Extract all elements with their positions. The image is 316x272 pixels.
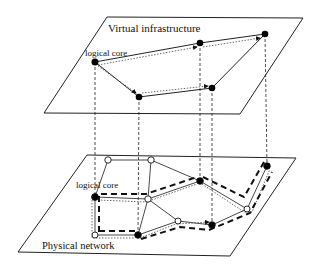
physical-node-open bbox=[244, 206, 250, 212]
logical-core-label-top: logical core bbox=[85, 48, 127, 58]
virtual-node bbox=[136, 94, 143, 101]
logical-core-label-bottom: logical core bbox=[76, 180, 118, 190]
physical-node-filled bbox=[209, 222, 216, 229]
virtual-node bbox=[262, 31, 269, 38]
virtual-node bbox=[209, 85, 216, 92]
plane-label-virtual: Virtual infrastructure bbox=[108, 22, 201, 34]
physical-node-filled bbox=[264, 163, 271, 170]
physical-node-filled bbox=[135, 232, 142, 239]
physical-node-open bbox=[105, 157, 111, 163]
physical-node-open bbox=[175, 218, 181, 224]
physical-network-plane: Physical network logical core bbox=[18, 155, 296, 256]
physical-node-filled bbox=[197, 178, 204, 185]
physical-node-open bbox=[148, 157, 154, 163]
virtual-node bbox=[197, 40, 204, 47]
physical-node-open bbox=[145, 196, 151, 202]
physical-node-core bbox=[92, 194, 99, 201]
network-virtualization-diagram: Virtual infrastructure logical core bbox=[0, 0, 316, 272]
physical-route-dashed bbox=[99, 162, 272, 239]
virtual-infrastructure-plane: Virtual infrastructure logical core bbox=[44, 17, 303, 114]
virtual-node-core bbox=[92, 59, 99, 66]
physical-links bbox=[95, 160, 267, 235]
physical-node-open bbox=[92, 232, 98, 238]
plane-label-physical: Physical network bbox=[42, 240, 115, 251]
